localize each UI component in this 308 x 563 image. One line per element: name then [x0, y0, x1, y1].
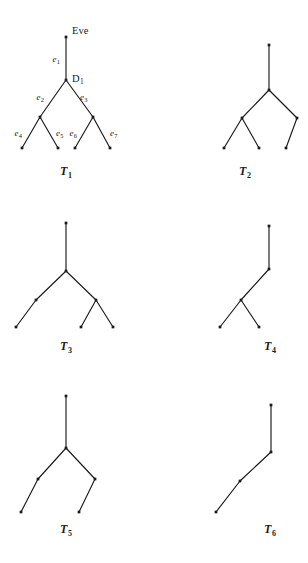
tree-node-right-leaf: [296, 117, 299, 120]
tree-node-root: [268, 225, 271, 228]
tree-node-split: [240, 299, 243, 302]
tree-node-d1: [65, 79, 68, 82]
tree-edge: [93, 117, 110, 148]
tree-t1: EveD1e1e2e3e4e5e6e7T1: [14, 25, 118, 180]
tree-node-split: [65, 270, 68, 273]
tree-t5: T5: [20, 395, 97, 538]
tree-node-leaf-1: [215, 511, 218, 514]
tree-t6: T6: [215, 404, 276, 538]
tree-edge: [22, 117, 40, 148]
tree-node-leaf-1: [21, 147, 24, 150]
edge-label: e7: [110, 128, 118, 139]
tree-edge: [16, 300, 36, 327]
tree-edge: [79, 479, 95, 512]
tree-caption-t2: T2: [239, 164, 251, 180]
tree-node-root: [270, 404, 273, 407]
tree-node-leaf-2: [258, 326, 261, 329]
tree-node-leaf-4: [109, 147, 112, 150]
tree-node-leaf-3: [285, 147, 288, 150]
tree-edge: [75, 117, 93, 148]
tree-edge: [241, 300, 259, 327]
tree-t3: T3: [15, 222, 115, 355]
tree-node-mid: [268, 268, 271, 271]
tree-node-left-internal: [241, 117, 244, 120]
tree-node-leaf-2: [80, 326, 83, 329]
edge-label: e2: [36, 92, 44, 103]
tree-node-right-internal: [95, 299, 98, 302]
tree-edge: [216, 481, 240, 512]
tree-caption-t3: T3: [60, 339, 72, 355]
tree-node-leaf-2: [78, 511, 81, 514]
tree-node-mid-2: [239, 480, 242, 483]
tree-edge: [240, 452, 271, 481]
tree-node-leaf-1: [20, 511, 23, 514]
tree-edge: [286, 118, 297, 148]
tree-edge: [66, 271, 96, 300]
tree-node-root: [65, 395, 68, 398]
tree-node-leaf-1: [219, 326, 222, 329]
edge-label: e3: [80, 92, 88, 103]
tree-node-left-leaf: [35, 299, 38, 302]
tree-edge: [66, 448, 95, 479]
tree-edge: [242, 90, 269, 118]
tree-node-leaf-2: [57, 147, 60, 150]
tree-edge: [224, 118, 242, 148]
tree-node-left-mid: [37, 478, 40, 481]
tree-caption-t6: T6: [264, 522, 276, 538]
tree-edge: [38, 448, 66, 479]
edge-label: e6: [69, 128, 77, 139]
tree-node-right-internal: [92, 116, 95, 119]
tree-edge: [21, 479, 38, 512]
tree-t2: T2: [223, 44, 299, 180]
tree-edge: [96, 300, 113, 327]
tree-edge: [269, 90, 297, 118]
tree-node-leaf-3: [74, 147, 77, 150]
node-label: Eve: [72, 25, 89, 36]
tree-node-right-mid: [94, 478, 97, 481]
figure-root: EveD1e1e2e3e4e5e6e7T1T2T3T4T5T6: [0, 0, 308, 563]
tree-edge: [242, 118, 259, 148]
tree-node-leaf-1: [223, 147, 226, 150]
tree-node-leaf-3: [112, 326, 115, 329]
edge-label: e4: [14, 128, 22, 139]
node-label: D1: [72, 73, 84, 86]
tree-edge: [220, 300, 241, 327]
tree-diagram-canvas: EveD1e1e2e3e4e5e6e7T1T2T3T4T5T6: [0, 0, 308, 563]
tree-caption-t5: T5: [60, 522, 72, 538]
tree-node-left-internal: [39, 116, 42, 119]
tree-edge: [81, 300, 96, 327]
tree-node-root: [65, 222, 68, 225]
tree-node-root: [268, 44, 271, 47]
tree-edge: [36, 271, 66, 300]
tree-node-split: [268, 89, 271, 92]
tree-caption-t1: T1: [60, 164, 72, 180]
edge-label: e1: [52, 54, 60, 65]
tree-edge: [241, 269, 269, 300]
tree-node-root: [65, 36, 68, 39]
tree-node-split: [65, 447, 68, 450]
tree-t4: T4: [219, 225, 276, 355]
tree-node-mid-1: [270, 451, 273, 454]
tree-caption-t4: T4: [264, 339, 276, 355]
edge-label: e5: [56, 128, 64, 139]
tree-node-leaf-1: [15, 326, 18, 329]
tree-node-leaf-2: [258, 147, 261, 150]
